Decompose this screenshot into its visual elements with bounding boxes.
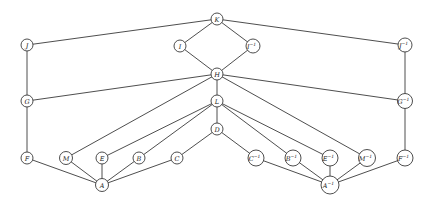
node-label: H [213, 71, 220, 79]
edge-K-J [27, 19, 217, 45]
node-B: B [133, 152, 145, 164]
node-Ai: A−1 [321, 176, 339, 194]
node-I: I [174, 40, 186, 52]
node-label: C [175, 155, 180, 163]
edge-L-B [139, 101, 217, 158]
node-A: A [96, 179, 109, 192]
node-label-superscript: −1 [403, 97, 410, 102]
node-Ii: I−1 [246, 39, 260, 53]
edge-I-H [180, 46, 217, 74]
node-label-superscript: −1 [254, 154, 261, 159]
node-label: D [213, 126, 220, 134]
node-label: M [62, 155, 70, 163]
edge-D-C [177, 129, 217, 158]
edge-H-G [27, 74, 217, 101]
node-label: G [24, 98, 29, 106]
node-J: J [21, 39, 33, 51]
node-label: A [99, 182, 105, 190]
node-label: F [24, 155, 30, 163]
node-label: E [99, 155, 105, 163]
node-Ei: E−1 [322, 150, 338, 166]
node-label-superscript: −1 [291, 154, 298, 159]
edge-K-Ji [217, 19, 405, 45]
node-M: M [60, 152, 73, 165]
node-label: I [178, 43, 182, 51]
node-Bi: B−1 [285, 150, 301, 166]
node-label: B [136, 155, 142, 163]
node-D: D [211, 123, 223, 135]
edge-L-Bi [217, 101, 293, 158]
node-label: L [214, 98, 219, 106]
node-label-superscript: −1 [328, 181, 335, 186]
node-label-superscript: −1 [402, 154, 409, 159]
node-label-superscript: −1 [401, 41, 408, 46]
node-label-superscript: −1 [328, 154, 335, 159]
node-label-superscript: −1 [366, 154, 373, 159]
graph-diagram: KII−1JJ−1HGG−1LDFMEBCC−1B−1E−1M−1F−1AA−1 [0, 0, 432, 209]
edge-H-Gi [217, 74, 405, 101]
edge-L-Ei [217, 101, 330, 158]
node-Ji: J−1 [397, 38, 412, 52]
edge-L-E [102, 101, 217, 158]
node-H: H [211, 68, 223, 80]
node-Ci: C−1 [248, 150, 264, 166]
node-F: F [21, 152, 33, 164]
node-Mi: M−1 [358, 150, 376, 167]
node-Gi: G−1 [398, 94, 413, 109]
node-K: K [211, 13, 223, 25]
node-L: L [211, 95, 223, 107]
node-Fi: F−1 [397, 150, 413, 166]
node-G: G [21, 95, 33, 107]
node-C: C [171, 152, 183, 164]
node-label-superscript: −1 [249, 42, 256, 47]
node-E: E [96, 152, 108, 164]
